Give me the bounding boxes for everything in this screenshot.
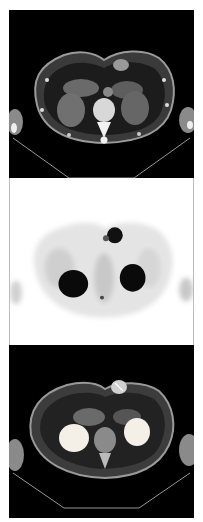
ct-scan-panel <box>9 10 194 178</box>
pet-scan-image <box>10 178 193 345</box>
ct-scan-image <box>9 10 194 178</box>
pet-scan-panel <box>9 178 194 345</box>
fused-pet-ct-image <box>9 345 194 518</box>
fused-pet-ct-panel <box>9 345 194 518</box>
